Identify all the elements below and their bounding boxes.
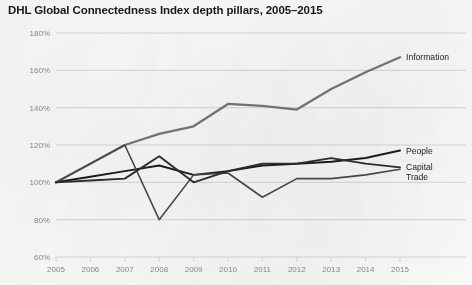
series-labels-group: InformationPeopleCapitalTrade: [406, 52, 449, 182]
x-tick-label: 2009: [185, 265, 203, 274]
series-line-trade: [56, 156, 400, 182]
x-axis-line-group: [56, 257, 400, 261]
series-line-information: [56, 57, 400, 182]
x-axis-tick-labels: 2005200620072008200920102011201220132014…: [47, 265, 409, 274]
y-tick-label: 100%: [30, 178, 50, 187]
x-tick-label: 2013: [322, 265, 340, 274]
x-tick-label: 2014: [357, 265, 375, 274]
x-tick-label: 2015: [391, 265, 409, 274]
series-label-people: People: [406, 146, 433, 156]
y-tick-label: 60%: [34, 253, 50, 262]
line-chart: 60%80%100%120%140%160%180% 2005200620072…: [0, 0, 472, 285]
chart-title: DHL Global Connectedness Index depth pil…: [8, 4, 322, 16]
series-label-capital: Capital: [406, 162, 433, 172]
x-tick-label: 2008: [150, 265, 168, 274]
x-tick-label: 2007: [116, 265, 134, 274]
x-tick-label: 2006: [82, 265, 100, 274]
x-tick-label: 2012: [288, 265, 306, 274]
series-label-trade: Trade: [406, 172, 428, 182]
y-tick-label: 180%: [30, 29, 50, 38]
gridlines-group: [56, 33, 466, 257]
y-tick-label: 140%: [30, 104, 50, 113]
y-axis-tick-labels: 60%80%100%120%140%160%180%: [30, 29, 50, 262]
series-lines-group: [56, 57, 400, 219]
x-tick-label: 2010: [219, 265, 237, 274]
y-tick-label: 120%: [30, 141, 50, 150]
y-tick-label: 160%: [30, 66, 50, 75]
x-tick-label: 2011: [254, 265, 272, 274]
series-label-information: Information: [406, 52, 449, 62]
y-tick-label: 80%: [34, 216, 50, 225]
x-tick-label: 2005: [47, 265, 65, 274]
